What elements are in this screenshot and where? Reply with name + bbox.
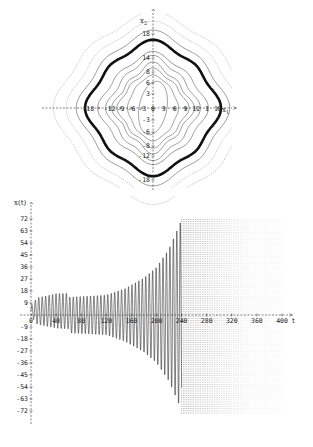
svg-text:x2: x2 (140, 17, 147, 26)
x2-tick-label: -12 (138, 152, 150, 160)
x2-tick-label: 14 (142, 54, 150, 62)
svg-text:x1: x1 (222, 106, 229, 115)
t-tick-label: 80 (77, 317, 85, 325)
x1-tick-label: 1 (205, 105, 209, 113)
t-tick-label: 240 (176, 317, 188, 325)
x-tick-label: -72 (16, 407, 28, 415)
svg-text:^: ^ (29, 201, 33, 209)
x-tick-label: -45 (16, 371, 28, 379)
x-tick-label: 18 (20, 287, 28, 295)
x2-tick-label: 8 (146, 68, 150, 76)
x1-tick-label: 0 (151, 105, 155, 113)
x-tick-label: 72 (20, 215, 28, 223)
chart-canvas: >^-18-12-9-6-3036912118x11814863-3-6-8-1… (0, 0, 313, 447)
t-tick-label: 0 (29, 317, 33, 325)
x-tick-label: 54 (20, 239, 28, 247)
time-series-plot: >^04080120160200240280320360400t72635445… (14, 199, 295, 425)
x-of-t-curve (31, 223, 182, 403)
x-tick-label: 63 (20, 227, 28, 235)
x1-tick-label: 12 (192, 105, 200, 113)
x1-tick-label: -6 (127, 105, 135, 113)
x1-tick-label: 6 (173, 105, 177, 113)
x1-tick-label: 3 (162, 105, 166, 113)
t-tick-label: 280 (201, 317, 213, 325)
x-tick-label: 45 (20, 251, 28, 259)
x-tick-label: -18 (16, 335, 28, 343)
x2-tick-label: -6 (142, 128, 150, 136)
x2-tick-label: -18 (138, 176, 150, 184)
x2-tick-label: 3 (146, 90, 150, 98)
x-tick-label: -63 (16, 395, 28, 403)
t-tick-label: 320 (226, 317, 238, 325)
t-tick-label: 160 (126, 317, 138, 325)
x-tick-label: -54 (16, 383, 28, 391)
x-tick-label: -36 (16, 359, 28, 367)
t-tick-label: 200 (151, 317, 163, 325)
x1-tick-label: 9 (183, 105, 187, 113)
x1-tick-label: -3 (138, 105, 146, 113)
x-tick-label: -9 (20, 323, 28, 331)
phase-portrait-plot: >^-18-12-9-6-3036912118x11814863-3-6-8-1… (0, 0, 313, 205)
x-tick-label: 9 (24, 299, 28, 307)
t-axis-label: t (292, 317, 295, 325)
x1-tick-label: 18 (214, 105, 222, 113)
x2-tick-label: -3 (142, 116, 150, 124)
t-tick-label: 400 (276, 317, 288, 325)
x2-tick-label: 18 (142, 30, 150, 38)
x-tick-label: 27 (20, 275, 28, 283)
x1-tick-label: -12 (104, 105, 116, 113)
t-tick-label: 120 (100, 317, 112, 325)
x-tick-label: -27 (16, 347, 28, 355)
x1-tick-label: -9 (117, 105, 125, 113)
svg-text:^: ^ (151, 8, 155, 16)
x-tick-label: 36 (20, 263, 28, 271)
svg-text:>: > (233, 104, 237, 112)
t-tick-label: 360 (251, 317, 263, 325)
x-of-t-axis-label: x(t) (14, 199, 26, 207)
x2-tick-label: -8 (142, 142, 150, 150)
x2-tick-label: 6 (146, 79, 150, 87)
x1-tick-label: -18 (82, 105, 94, 113)
t-tick-label: 40 (52, 317, 60, 325)
